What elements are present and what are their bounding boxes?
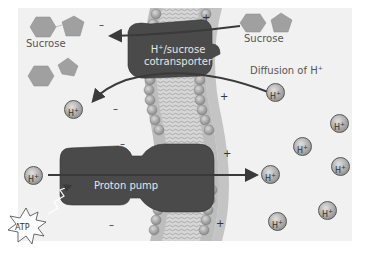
h-ion: H+	[24, 166, 43, 185]
minus-sign: –	[109, 219, 114, 230]
h-ion: H+	[266, 83, 285, 102]
sucrose-molecule-left-top	[30, 16, 84, 37]
h-ion: H+	[64, 100, 83, 119]
h-ion: H+	[330, 114, 349, 133]
sucrose-label-left: Sucrose	[26, 38, 66, 49]
sucrose-molecule-right	[240, 13, 292, 32]
minus-sign: –	[113, 103, 118, 114]
h-ion: H+	[261, 165, 280, 184]
plus-sign: +	[202, 12, 210, 23]
h-ion: H+	[331, 157, 350, 176]
minus-sign: –	[120, 138, 125, 149]
plus-sign: +	[216, 218, 224, 229]
sucrose-molecule-left-bottom	[28, 58, 78, 86]
proton-pump-protein[interactable]	[60, 144, 214, 212]
proton-pump-label: Proton pump	[94, 180, 158, 192]
plus-sign: +	[220, 91, 228, 102]
diffusion-label: Diffusion of H⁺	[250, 65, 323, 76]
minus-sign: –	[99, 19, 104, 30]
cotransporter-label: H⁺/sucrose cotransporter	[136, 44, 220, 68]
sucrose-label-right: Sucrose	[244, 33, 284, 44]
plus-sign: +	[223, 148, 231, 159]
h-ion: H+	[318, 201, 337, 220]
h-ion: H+	[268, 212, 287, 231]
h-ion: H+	[293, 137, 312, 156]
atp-label: ATP	[15, 223, 30, 232]
